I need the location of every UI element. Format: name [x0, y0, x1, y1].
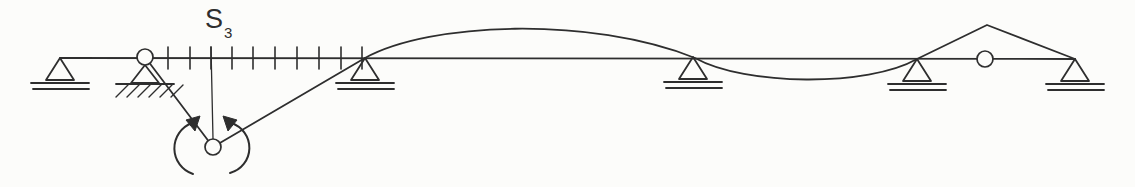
support-e-triangle [903, 59, 931, 81]
influence-line-diagram: S3 [0, 0, 1135, 187]
support-b-hinge [137, 49, 153, 65]
beam-hinge [977, 51, 993, 67]
support-b-hatch-1 [116, 85, 128, 97]
support-b-triangle [131, 65, 159, 83]
moment-arrow-left-head [186, 116, 200, 131]
support-b-hatch-2 [127, 85, 139, 97]
section-moment-hinge [205, 139, 221, 155]
beam-line [60, 58, 1075, 59]
support-b-hatch-4 [149, 85, 161, 97]
section-line [211, 47, 213, 139]
diagram-svg [0, 0, 1135, 187]
support-b-hatch-3 [138, 85, 150, 97]
section-label-subscript: 3 [224, 24, 232, 41]
support-d-triangle [679, 57, 707, 79]
support-c-triangle [351, 58, 379, 80]
support-a-triangle [46, 58, 74, 80]
section-label-base: S [205, 4, 223, 34]
support-f-triangle [1061, 59, 1089, 81]
support-b-hatch-6 [171, 85, 183, 97]
section-label: S3 [205, 6, 231, 36]
influence-line-curve [145, 25, 1075, 147]
moment-arrow-left-arc [174, 123, 193, 174]
